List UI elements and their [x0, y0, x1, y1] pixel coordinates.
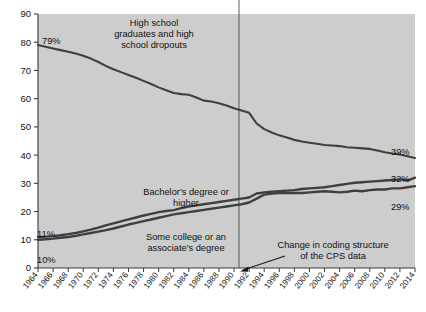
y-tick-label: 40	[20, 150, 31, 161]
y-tick-label: 60	[20, 93, 31, 104]
x-tick-label: 2002	[308, 270, 327, 290]
plot-background	[38, 14, 415, 268]
x-tick-label: 1986	[187, 270, 206, 290]
series-label-hs-line1: High school	[130, 18, 179, 28]
x-tick-label: 2008	[353, 270, 372, 290]
coding-change-annotation-line2: of the CPS data	[300, 251, 366, 261]
x-tick-label: 2004	[323, 270, 342, 290]
x-tick-label: 1970	[67, 270, 86, 290]
x-tick-label: 2012	[383, 270, 402, 290]
series-label-bachelors-line2: higher	[173, 198, 199, 208]
start-value-label-hs: 79%	[42, 36, 61, 46]
x-tick-label: 1980	[142, 270, 161, 290]
x-tick-label: 1992	[232, 270, 251, 290]
y-axis-tick-labels: 0102030405060708090	[20, 8, 31, 273]
x-tick-label: 1982	[157, 270, 176, 290]
end-value-label-bachelors: 32%	[391, 174, 410, 184]
x-tick-label: 1990	[217, 270, 236, 290]
series-label-hs-line3: school dropouts	[121, 40, 187, 50]
x-tick-label: 2014	[398, 270, 417, 290]
y-tick-label: 70	[20, 65, 31, 76]
end-value-label-hs: 39%	[391, 147, 410, 157]
series-label-somecollege: Some college or an associate's degree	[146, 232, 226, 253]
y-tick-label: 50	[20, 121, 31, 132]
y-tick-label: 0	[26, 262, 31, 273]
y-tick-label: 80	[20, 37, 31, 48]
x-tick-label: 1974	[97, 270, 116, 290]
start-value-label-somecollege: 10%	[37, 255, 56, 265]
x-tick-label: 1976	[112, 270, 131, 290]
x-axis-ticks	[38, 268, 415, 272]
chart-container: 0102030405060708090 19641966196819701972…	[0, 0, 426, 312]
x-tick-label: 1964	[21, 270, 40, 290]
x-tick-label: 2010	[368, 270, 387, 290]
y-tick-label: 20	[20, 206, 31, 217]
y-tick-label: 10	[20, 234, 31, 245]
x-axis-tick-labels: 1964196619681970197219741976197819801982…	[21, 270, 417, 290]
x-tick-label: 1966	[36, 270, 55, 290]
series-label-somecollege-line1: Some college or an	[146, 232, 226, 242]
end-value-label-somecollege: 29%	[391, 202, 410, 212]
x-tick-label: 1978	[127, 270, 146, 290]
line-chart-svg: 0102030405060708090 19641966196819701972…	[0, 0, 426, 312]
coding-change-annotation-line1: Change in coding structure	[277, 240, 388, 250]
series-label-somecollege-line2: associate's degree	[147, 243, 224, 253]
x-tick-label: 2000	[293, 270, 312, 290]
y-tick-label: 90	[20, 8, 31, 19]
start-value-label-bachelors: 11%	[37, 229, 55, 239]
series-label-bachelors-line1: Bachelor's degree or	[143, 187, 229, 197]
x-tick-label: 1998	[278, 270, 297, 290]
x-tick-label: 1988	[202, 270, 221, 290]
x-tick-label: 1996	[263, 270, 282, 290]
x-tick-label: 1994	[247, 270, 266, 290]
x-tick-label: 1972	[82, 270, 101, 290]
y-tick-label: 30	[20, 178, 31, 189]
x-tick-label: 1968	[51, 270, 70, 290]
series-label-hs-line2: graduates and high	[114, 29, 194, 39]
x-tick-label: 2006	[338, 270, 357, 290]
x-tick-label: 1984	[172, 270, 191, 290]
